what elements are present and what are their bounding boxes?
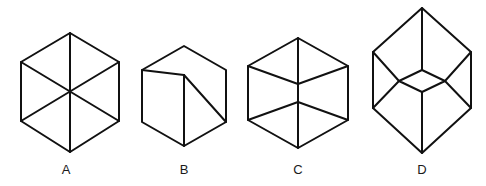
option-label-a: A xyxy=(62,162,71,177)
inner-line-d-lower-right-ray xyxy=(445,81,471,108)
inner-line-b-to-left-vertex xyxy=(142,70,184,75)
inner-line-c-floor-right xyxy=(298,102,348,120)
option-figure-a[interactable]: A xyxy=(21,33,119,177)
center-diamond-d xyxy=(399,70,445,92)
figure-canvas: A B C D xyxy=(0,0,486,186)
option-figure-d[interactable]: D xyxy=(373,8,471,177)
inner-line-d-upper-left-ray xyxy=(373,52,399,81)
figure-panel: A B C D xyxy=(0,0,486,186)
inner-line-d-upper-right-ray xyxy=(445,52,471,81)
inner-line-d-lower-left-ray xyxy=(373,81,399,108)
option-label-b: B xyxy=(180,162,189,177)
option-label-d: D xyxy=(417,162,426,177)
option-label-c: C xyxy=(293,162,302,177)
option-figure-c[interactable]: C xyxy=(248,38,348,177)
inner-line-b-to-right-vertex xyxy=(184,75,226,122)
inner-line-c-roof-left xyxy=(248,66,298,84)
inner-line-c-floor-left xyxy=(248,102,298,120)
option-figure-b[interactable]: B xyxy=(142,46,226,177)
inner-line-c-roof-right xyxy=(298,66,348,84)
